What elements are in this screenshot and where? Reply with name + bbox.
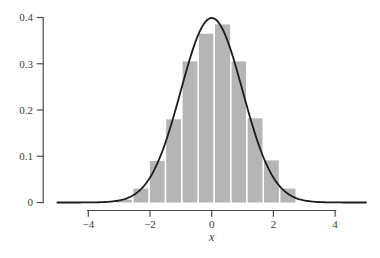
histogram-bar [150,161,165,203]
y-tick-label: 0.1 [19,150,33,162]
x-tick-label: 0 [209,218,215,230]
y-axis: 00.10.20.30.4 [19,11,43,208]
histogram-bar [183,61,198,202]
figure: 00.10.20.30.4 −4−2024 x [0,0,380,258]
y-tick-label: 0 [28,196,34,208]
y-tick-label: 0.3 [19,58,33,70]
y-tick-label: 0.2 [19,104,33,116]
histogram-bars [117,24,295,202]
x-tick-label: −2 [144,218,156,230]
x-tick-label: −4 [82,218,94,230]
histogram-bar [199,34,213,203]
x-tick-label: 2 [271,218,277,230]
density-chart: 00.10.20.30.4 −4−2024 x [0,0,380,258]
histogram-bar [215,24,230,202]
x-axis-title: x [208,230,215,244]
x-axis: −4−2024 [82,211,338,230]
x-tick-label: 4 [332,218,338,230]
y-tick-label: 0.4 [19,11,33,23]
histogram-bar [134,189,149,203]
histogram-bar [280,189,295,203]
histogram-bar [232,61,246,202]
